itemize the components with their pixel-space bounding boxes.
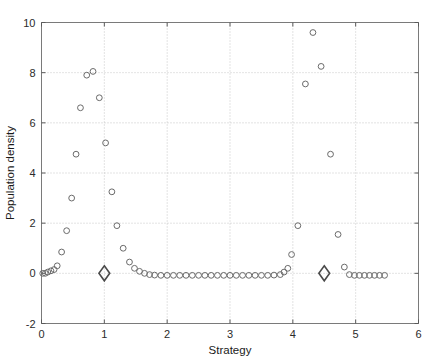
data-point-circle (69, 195, 75, 201)
x-axis-title: Strategy (209, 344, 252, 356)
data-point-circle (158, 272, 164, 278)
data-point-circle (341, 264, 347, 270)
data-point-circle (54, 263, 60, 269)
data-point-circle (233, 272, 239, 278)
x-tick-label: 2 (164, 328, 170, 340)
data-point-circle (59, 249, 65, 255)
y-axis-title: Population density (4, 126, 16, 220)
data-point-circle (96, 95, 102, 101)
population-density-vs-strategy-chart: 0123456-20246810 StrategyPopulation dens… (0, 0, 432, 360)
data-point-circle (103, 140, 109, 146)
y-tick-label: 6 (29, 117, 35, 129)
x-tick-label: 4 (290, 328, 296, 340)
data-point-circle (109, 189, 115, 195)
data-point-circle (114, 223, 120, 229)
data-point-circle (64, 228, 70, 234)
x-tick-label: 6 (415, 328, 421, 340)
data-point-circle (310, 30, 316, 36)
data-point-circle (196, 272, 202, 278)
x-tick-label: 0 (38, 328, 44, 340)
data-point-circle (208, 272, 214, 278)
data-point-circle (289, 252, 295, 258)
data-point-circle (285, 265, 291, 271)
data-point-circle (73, 151, 79, 157)
data-point-circle (221, 272, 227, 278)
data-point-circle (303, 81, 309, 87)
data-point-circle (295, 223, 301, 229)
y-tick-label: 10 (23, 17, 35, 29)
data-point-circle (335, 232, 341, 238)
data-point-circle (78, 105, 84, 111)
data-point-circle (84, 72, 90, 78)
data-point-circle (202, 272, 208, 278)
y-tick-label: 8 (29, 67, 35, 79)
data-points (40, 30, 388, 281)
x-tick-label: 5 (353, 328, 359, 340)
data-point-circle (271, 272, 277, 278)
data-point-circle (265, 272, 271, 278)
data-point-circle (90, 69, 96, 75)
data-point-circle (120, 245, 126, 251)
data-point-circle (171, 272, 177, 278)
data-point-circle (328, 151, 334, 157)
y-tick-label: 4 (29, 167, 35, 179)
x-tick-label: 3 (227, 328, 233, 340)
y-tick-label: -2 (26, 318, 36, 330)
data-point-circle (127, 259, 133, 265)
data-point-circle (215, 272, 221, 278)
y-tick-label: 0 (29, 267, 35, 279)
x-tick-label: 1 (101, 328, 107, 340)
scatter-plot-figure: 0123456-20246810 StrategyPopulation dens… (0, 0, 432, 360)
y-tick-label: 2 (29, 217, 35, 229)
data-point-circle (318, 63, 324, 69)
tick-labels: 0123456-20246810 (23, 17, 421, 340)
